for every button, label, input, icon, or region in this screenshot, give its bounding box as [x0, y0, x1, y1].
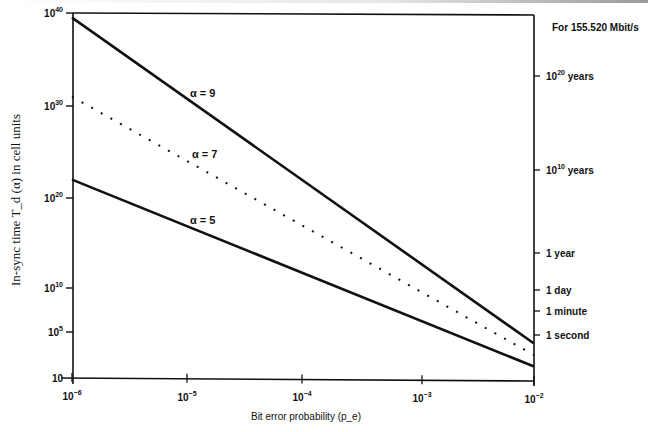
y-tick-label: 1010: [44, 281, 63, 294]
right-tick-label: 1 second: [546, 330, 589, 341]
series-lines: [72, 18, 534, 367]
right-tick-label: 1010 years: [546, 163, 594, 176]
y-tick-label: 1020: [44, 191, 63, 204]
series-label: α = 5: [190, 214, 215, 226]
right-axis-ticks: 1020 years1010 years1 year1 day1 minute1…: [534, 69, 594, 341]
series-line-5: [72, 180, 534, 367]
bottom-axis-line: [61, 378, 534, 381]
series-label: α = 9: [190, 87, 215, 99]
series-line-9: [72, 18, 534, 344]
series-label: α = 7: [192, 148, 217, 160]
y-tick-label: 10: [52, 373, 64, 384]
x-tick-label: 10−5: [177, 390, 196, 403]
x-tick-label: 10−4: [292, 390, 311, 403]
y-axis-ticks: 104010301020101010510: [44, 6, 73, 384]
right-tick-label: 1 minute: [546, 306, 588, 317]
top-border: [73, 13, 534, 15]
y-tick-label: 105: [48, 325, 63, 338]
plot-frame: [61, 13, 534, 386]
series-labels: α = 9α = 7α = 5: [190, 87, 217, 226]
right-tick-label: 1020 years: [546, 69, 594, 82]
y-axis-title: In-sync time T_d (α) in cell units: [8, 114, 23, 286]
series-line-7: [72, 97, 534, 355]
x-tick-label: 10−6: [62, 389, 81, 402]
in-sync-time-chart: 104010301020101010510 10−610−510−410−310…: [0, 0, 648, 432]
x-tick-label: 10−3: [412, 391, 431, 404]
y-tick-label: 1040: [44, 6, 63, 19]
right-tick-label: 1 year: [546, 248, 575, 259]
y-tick-label: 1030: [44, 99, 63, 112]
x-tick-label: 10−2: [524, 392, 543, 405]
rate-annotation: For 155.520 Mbit/s: [552, 22, 639, 33]
right-tick-label: 1 day: [546, 285, 572, 296]
x-axis-title: Bit error probability (p_e): [251, 411, 361, 422]
